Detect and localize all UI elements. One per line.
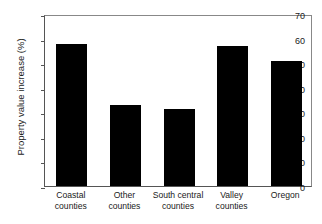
bar: [164, 109, 195, 186]
x-axis-label-line: counties: [205, 201, 259, 212]
bar: [271, 61, 302, 186]
y-axis-tick-mark: [41, 188, 45, 189]
x-axis-category-label: Othercounties: [98, 190, 152, 212]
x-axis-category-label: Oregon: [258, 190, 312, 201]
plot-area: 010203040506070: [44, 15, 312, 187]
y-axis-tick-mark: [41, 41, 45, 42]
bar: [56, 44, 87, 187]
y-axis-tick-label: 70: [295, 11, 305, 21]
bar-chart-figure: Property value increase (%) 010203040506…: [0, 0, 322, 224]
x-axis-category-label: Coastalcounties: [44, 190, 98, 212]
x-axis-label-line: Oregon: [258, 190, 312, 201]
y-axis-tick-mark: [41, 114, 45, 115]
x-axis-label-line: Valley: [205, 190, 259, 201]
x-axis-label-line: South central: [151, 190, 205, 201]
y-axis-tick-mark: [41, 65, 45, 66]
x-axis-category-label: South centralcounties: [151, 190, 205, 212]
x-axis-category-label: Valleycounties: [205, 190, 259, 212]
x-axis-label-line: counties: [151, 201, 205, 212]
bar: [217, 46, 248, 186]
y-axis-tick-mark: [41, 16, 45, 17]
x-axis-label-line: counties: [98, 201, 152, 212]
x-axis-label-line: Coastal: [44, 190, 98, 201]
x-axis-label-line: counties: [44, 201, 98, 212]
y-axis-tick-mark: [41, 90, 45, 91]
bar: [110, 105, 141, 186]
y-axis-tick-label: 60: [295, 36, 305, 46]
y-axis-tick-mark: [41, 163, 45, 164]
y-axis-title: Property value increase (%): [14, 2, 28, 192]
y-axis-tick-mark: [41, 139, 45, 140]
x-axis-label-line: Other: [98, 190, 152, 201]
